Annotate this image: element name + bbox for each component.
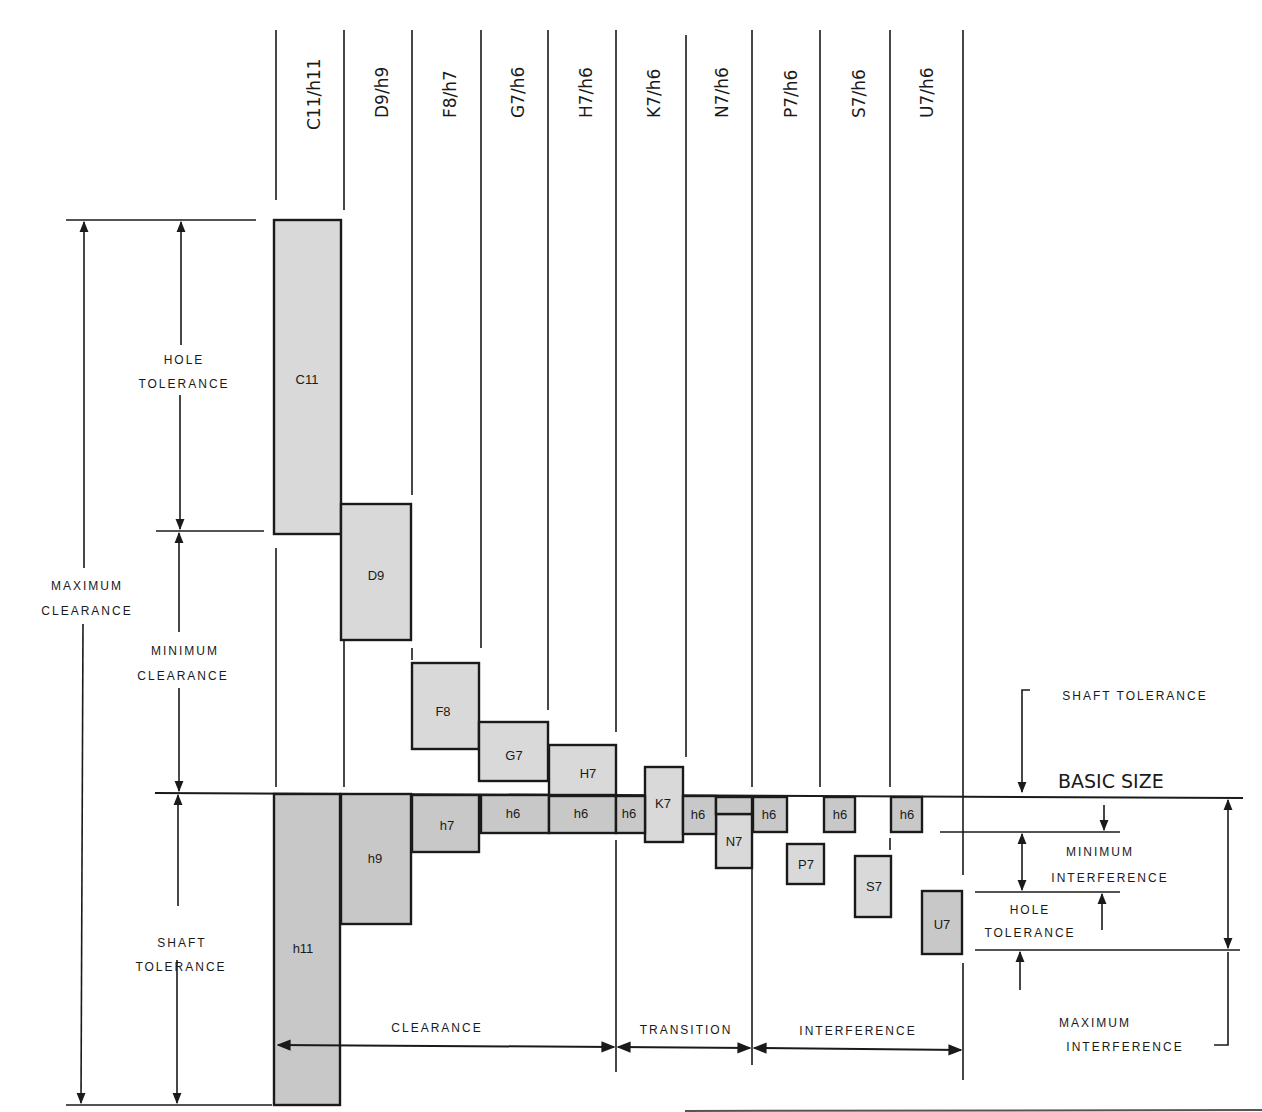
hole-zone-label: S7 [866, 879, 882, 894]
column-headers: C11/h11 D9/h9 F8/h7 G7/h6 H7/h6 K7/h6 N7… [304, 58, 937, 130]
shaft-zone-label: h6 [622, 806, 636, 821]
shaft-tolerance-label: TOLERANCE [135, 960, 226, 974]
maximum-interference-label: INTERFERENCE [1066, 1040, 1183, 1054]
fits-diagram: C11/h11 D9/h9 F8/h7 G7/h6 H7/h6 K7/h6 N7… [0, 0, 1262, 1112]
shaft-zone-label: h6 [574, 806, 588, 821]
maximum-clearance-label: MAXIMUM [51, 579, 123, 593]
minimum-interference-label: MINIMUM [1066, 845, 1134, 859]
column-header: F8/h7 [440, 70, 460, 118]
shaft-zone-label: h6 [506, 806, 520, 821]
clearance-range-label: CLEARANCE [391, 1021, 482, 1035]
column-header: S7/h6 [849, 69, 869, 118]
shaft-zone-label: h9 [368, 851, 382, 866]
hole-tolerance-right-label: HOLE [1010, 903, 1051, 917]
hole-zone-label: U7 [934, 917, 951, 932]
transition-range-label: TRANSITION [640, 1023, 733, 1037]
shaft-tolerance-right-label: SHAFT TOLERANCE [1062, 689, 1207, 703]
minimum-interference-label: INTERFERENCE [1051, 871, 1168, 885]
hole-zone-label: N7 [726, 834, 743, 849]
column-header: P7/h6 [781, 70, 801, 118]
fit-range-bar: CLEARANCE TRANSITION INTERFERENCE [278, 1021, 961, 1050]
maximum-interference-label: MAXIMUM [1059, 1016, 1131, 1030]
column-header: U7/h6 [917, 67, 937, 118]
minimum-clearance-label: CLEARANCE [137, 669, 228, 683]
shaft-zone-label: h6 [691, 807, 705, 822]
shaft-zone-label: h7 [440, 818, 454, 833]
shaft-zone-label: h6 [833, 807, 847, 822]
column-header: H7/h6 [576, 67, 596, 118]
hole-zone-label: F8 [435, 704, 450, 719]
hole-tolerance-right-label: TOLERANCE [984, 926, 1075, 940]
shaft-zone-label: h6 [762, 807, 776, 822]
hole-zone-label: K7 [655, 796, 671, 811]
hole-zone-label: P7 [798, 857, 814, 872]
left-labels: HOLE TOLERANCE MAXIMUM CLEARANCE MINIMUM… [41, 353, 229, 974]
hole-zone-label: H7 [580, 766, 597, 781]
shaft-zones: h11 h9 h7 h6 h6 h6 h6 h6 h6 h6 [274, 794, 922, 1105]
column-header: D9/h9 [372, 67, 392, 118]
hole-tolerance-label: HOLE [164, 353, 205, 367]
interference-range-label: INTERFERENCE [799, 1024, 916, 1038]
shaft-tolerance-label: SHAFT [157, 936, 206, 950]
maximum-clearance-label: CLEARANCE [41, 604, 132, 618]
shaft-zone-label: h11 [293, 941, 314, 956]
column-header: K7/h6 [644, 69, 664, 118]
hole-zone-label: G7 [505, 748, 522, 763]
right-annotations: SHAFT TOLERANCE BASIC SIZE MINIMUM INTER… [940, 689, 1240, 1054]
basic-size-label: BASIC SIZE [1058, 770, 1164, 792]
hole-zone-label: D9 [368, 568, 385, 583]
hole-tolerance-label: TOLERANCE [138, 377, 229, 391]
column-header: G7/h6 [508, 67, 528, 118]
column-header: C11/h11 [304, 58, 324, 130]
minimum-clearance-label: MINIMUM [151, 644, 219, 658]
column-header: N7/h6 [712, 67, 732, 118]
hole-zone-label: C11 [296, 372, 319, 387]
page-edge [685, 1110, 1262, 1111]
shaft-zone-label: h6 [900, 807, 914, 822]
shaft-zone-h6-n7 [716, 797, 752, 814]
